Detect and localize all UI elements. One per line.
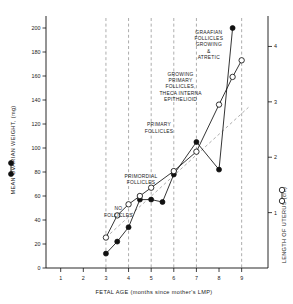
x-tick-label-2: 2 bbox=[82, 275, 85, 281]
data-point-s2-5 bbox=[148, 185, 153, 190]
annotation-line: FOLLICLES bbox=[104, 213, 133, 218]
chart-canvas: 0204060801001201401601802001234567891234… bbox=[0, 0, 293, 304]
data-point-s1-3 bbox=[126, 225, 131, 230]
data-point-s1-10 bbox=[230, 26, 235, 31]
annotation-graafian-follicles: GRAAFIANFOLLICLESGROWING&ATRETIC bbox=[195, 30, 224, 60]
annotation-no-follicles: NOFOLLICLES bbox=[104, 206, 133, 217]
x-tick-label-3: 3 bbox=[104, 275, 107, 281]
y-axis-title: MEAN OVARIAN WEIGHT, (mg) bbox=[10, 105, 16, 194]
annotation-line: PRIMORDIAL bbox=[125, 174, 158, 179]
data-point-s2-4 bbox=[137, 193, 142, 198]
ovarian-weight-uterus-length-chart: 0204060801001201401601802001234567891234… bbox=[0, 0, 293, 304]
y-tick-label-80: 80 bbox=[35, 169, 41, 175]
data-point-s2-6 bbox=[171, 168, 176, 173]
x-tick-label-7: 7 bbox=[195, 275, 198, 281]
x-tick-label-5: 5 bbox=[150, 275, 153, 281]
data-point-s2-10 bbox=[239, 58, 244, 63]
y2-tick-label-2: 2 bbox=[274, 154, 277, 160]
x-axis-title: FETAL AGE (months since mother's LMP) bbox=[96, 289, 213, 295]
data-point-s1-6 bbox=[160, 200, 165, 205]
annotation-line: NO bbox=[114, 206, 122, 211]
annotation-line: THECA INTERNA bbox=[159, 91, 202, 96]
y-tick-label-160: 160 bbox=[32, 73, 41, 79]
legend-marker-open-circle-bottom bbox=[279, 198, 284, 203]
series-line-1 bbox=[106, 28, 233, 254]
legend-marker-filled-circle-top bbox=[9, 161, 14, 166]
annotation-line: FOLLICLES bbox=[127, 180, 156, 185]
x-tick-label-9: 9 bbox=[240, 275, 243, 281]
y-tick-label-100: 100 bbox=[32, 145, 41, 151]
legend-marker-filled-circle-bottom bbox=[9, 172, 14, 177]
x-tick-label-6: 6 bbox=[172, 275, 175, 281]
annotation-line: PRIMARY bbox=[169, 78, 193, 83]
annotation-line: ATRETIC bbox=[198, 55, 221, 60]
data-point-s1-8 bbox=[194, 140, 199, 145]
y-tick-label-0: 0 bbox=[38, 265, 41, 271]
annotation-line: & bbox=[207, 49, 211, 54]
y-tick-label-180: 180 bbox=[32, 49, 41, 55]
annotation-line: FOLLICLES bbox=[145, 129, 174, 134]
data-point-s1-2 bbox=[115, 239, 120, 244]
annotation-line: GROWING bbox=[167, 72, 193, 77]
data-point-s2-8 bbox=[216, 102, 221, 107]
annotation-primordial-follicles: PRIMORDIALFOLLICLES bbox=[125, 174, 158, 185]
data-point-s2-3 bbox=[126, 202, 131, 207]
x-tick-label-8: 8 bbox=[218, 275, 221, 281]
y-tick-label-200: 200 bbox=[32, 25, 41, 31]
x-tick-label-4: 4 bbox=[127, 275, 130, 281]
data-point-s1-5 bbox=[149, 197, 154, 202]
y-tick-label-140: 140 bbox=[32, 97, 41, 103]
annotation-growing-primary-follicles: GROWINGPRIMARYFOLLICLES,THECA INTERNAEPI… bbox=[159, 72, 202, 102]
data-point-s2-1 bbox=[103, 235, 108, 240]
y2-tick-label-3: 3 bbox=[274, 99, 277, 105]
y-tick-label-120: 120 bbox=[32, 121, 41, 127]
annotation-line: EPITHELIOID bbox=[164, 97, 197, 102]
x-tick-label-1: 1 bbox=[59, 275, 62, 281]
annotation-primary-follicles: PRIMARYFOLLICLES bbox=[145, 122, 174, 133]
data-point-s1-1 bbox=[103, 251, 108, 256]
y2-tick-label-4: 4 bbox=[274, 43, 277, 49]
data-point-s2-7 bbox=[194, 149, 199, 154]
y-tick-label-20: 20 bbox=[35, 241, 41, 247]
data-point-s1-9 bbox=[217, 167, 222, 172]
y-tick-label-40: 40 bbox=[35, 217, 41, 223]
legend-marker-open-circle-top bbox=[279, 187, 284, 192]
data-point-s2-9 bbox=[230, 74, 235, 79]
y-tick-label-60: 60 bbox=[35, 193, 41, 199]
y2-tick-label-1: 1 bbox=[274, 210, 277, 216]
annotation-line: GROWING bbox=[196, 42, 222, 47]
uterus-trend-reference-line bbox=[106, 107, 248, 237]
annotation-line: FOLLICLES bbox=[195, 36, 224, 41]
annotation-line: FOLLICLES, bbox=[165, 84, 195, 89]
annotation-line: PRIMARY bbox=[147, 122, 171, 127]
annotation-line: GRAAFIAN bbox=[195, 30, 222, 35]
